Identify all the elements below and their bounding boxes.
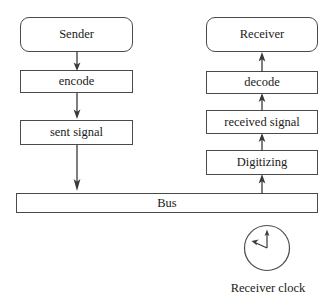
arrow-sent-signal-to-bus-icon	[66, 145, 90, 194]
receiver-clock-caption: Receiver clock	[213, 281, 323, 296]
node-bus-label: Bus	[157, 196, 176, 211]
arrow-decode-to-receiver-icon	[251, 52, 275, 73]
node-receiver: Receiver	[206, 17, 318, 52]
arrow-encode-to-sent-signal-icon	[66, 92, 90, 122]
node-receiver-label: Receiver	[240, 28, 284, 41]
arrow-bus-to-digitizing-icon	[251, 175, 275, 195]
node-sent-signal-label: sent signal	[50, 126, 103, 139]
node-decode-label: decode	[244, 76, 279, 89]
node-bus: Bus	[16, 193, 318, 213]
node-received-signal-label: received signal	[224, 116, 299, 129]
node-received-signal: received signal	[206, 110, 318, 134]
node-digitizing: Digitizing	[206, 150, 318, 175]
arrow-sender-to-encode-icon	[66, 50, 90, 74]
receiver-clock-icon	[243, 224, 291, 272]
arrow-digitizing-to-received-signal-icon	[251, 134, 275, 152]
diagram-canvas: Sender encode sent signal Receiver decod…	[0, 0, 335, 306]
node-sender: Sender	[20, 17, 133, 52]
node-sender-label: Sender	[59, 28, 94, 41]
node-decode: decode	[206, 71, 318, 94]
node-encode-label: encode	[59, 75, 94, 88]
node-sent-signal: sent signal	[20, 120, 133, 145]
node-digitizing-label: Digitizing	[237, 156, 288, 169]
arrow-received-signal-to-decode-icon	[251, 94, 275, 112]
